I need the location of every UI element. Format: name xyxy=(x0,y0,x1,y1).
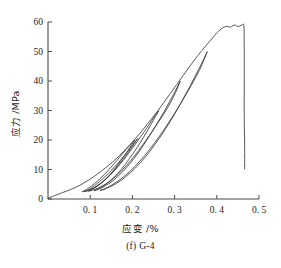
x-tick-label: 0. 4 xyxy=(210,205,225,215)
y-tick-label: 40 xyxy=(34,76,44,86)
backbone-loading-curve xyxy=(48,24,245,198)
axes-group xyxy=(48,22,259,199)
cycle-4-unload-reload-unload xyxy=(100,52,207,190)
x-axis-label-text: 应变 /% xyxy=(122,223,158,234)
y-tick-label: 0 xyxy=(38,194,43,204)
cycle-4-unload-reload-reload xyxy=(100,52,207,190)
y-axis-label-text: 应力 /MPa xyxy=(8,91,22,138)
tick-labels-group: 01020304050600. 10. 20. 30. 40. 5 xyxy=(34,17,267,215)
curves-group xyxy=(48,24,245,198)
y-tick-label: 20 xyxy=(34,135,44,145)
stress-strain-figure: 01020304050600. 10. 20. 30. 40. 5 应力 /MP… xyxy=(0,0,281,268)
x-tick-label: 0. 5 xyxy=(252,205,267,215)
y-axis-label: 应力 /MPa xyxy=(8,66,22,162)
figure-caption: (f) G-4 xyxy=(0,241,281,251)
figure-caption-text: (f) G-4 xyxy=(126,241,155,251)
cycle-5-partial-unload-reload-unload xyxy=(85,139,137,192)
y-tick-label: 50 xyxy=(34,47,44,57)
x-tick-label: 0. 1 xyxy=(83,205,98,215)
cycle-5-partial-unload-reload-reload xyxy=(85,139,137,192)
x-tick-label: 0. 2 xyxy=(125,205,140,215)
ticks-group xyxy=(48,22,259,199)
y-tick-label: 10 xyxy=(34,165,44,175)
y-tick-label: 60 xyxy=(34,17,44,27)
x-tick-label: 0. 3 xyxy=(167,205,182,215)
y-tick-label: 30 xyxy=(34,106,44,116)
x-axis-label: 应变 /% xyxy=(0,221,281,235)
